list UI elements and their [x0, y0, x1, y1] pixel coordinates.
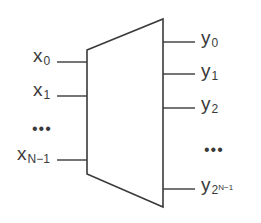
input-label-xn-1: xN−1 [17, 144, 50, 163]
outputs-ellipsis: ••• [204, 142, 224, 158]
input-label-x1: x1 [33, 80, 50, 99]
decoder-block [87, 19, 163, 207]
input-label-x0: x0 [33, 46, 50, 65]
output-label-y2: y2 [201, 94, 218, 113]
output-label-y0: y0 [201, 28, 218, 47]
inputs-ellipsis: ••• [32, 121, 52, 137]
output-label-y1: y1 [201, 61, 218, 80]
output-label-y2n-1: y2N−1 [201, 175, 233, 194]
